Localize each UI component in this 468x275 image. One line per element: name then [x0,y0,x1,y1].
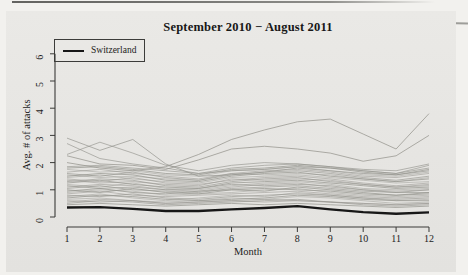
x-tick-label: 3 [130,233,135,244]
x-tick-label: 9 [328,233,333,244]
scanned-figure-page: September 2010 − August 2011 01234561234… [0,0,468,275]
x-tick-label: 11 [391,233,401,244]
scan-artifact-line-top [12,1,435,3]
x-tick-label: 5 [196,233,201,244]
y-tick-label: 0 [34,218,45,223]
y-tick-label: 3 [34,136,45,141]
y-tick-label: 5 [34,82,45,87]
series-line-Switzerland [67,206,429,214]
legend-label: Switzerland [91,45,136,55]
chart-figure: September 2010 − August 2011 01234561234… [6,11,456,272]
x-tick-label: 4 [163,233,168,244]
y-tick-label: 1 [34,191,45,196]
x-tick-label: 1 [65,233,70,244]
legend-line-swatch [63,50,84,53]
x-axis-title: Month [234,246,262,257]
legend: Switzerland [54,39,145,62]
x-tick-label: 2 [97,233,102,244]
x-tick-label: 6 [229,233,234,244]
y-tick-label: 6 [34,55,45,60]
y-tick-label: 4 [34,109,45,114]
x-tick-label: 7 [262,233,267,244]
y-axis-title: Avg. # of attacks [21,100,32,171]
x-tick-label: 12 [424,233,434,244]
x-tick-label: 8 [295,233,300,244]
y-tick-label: 2 [34,164,45,169]
x-tick-label: 10 [358,233,368,244]
